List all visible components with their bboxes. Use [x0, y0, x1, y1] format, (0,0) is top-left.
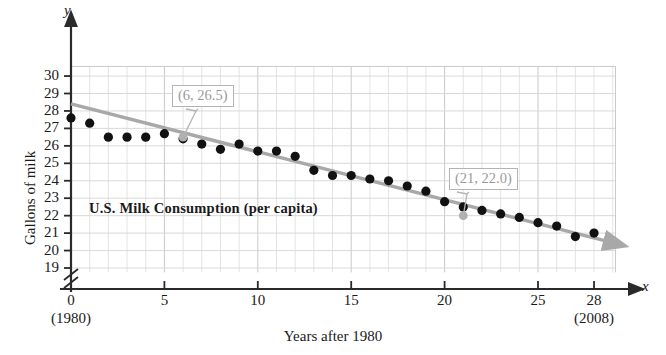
x-tick-label: 20 [425, 292, 465, 309]
y-tick-label: 28 [31, 102, 59, 119]
y-tick-label: 30 [31, 67, 59, 84]
x-axis-variable: x [642, 278, 649, 295]
chart-title: U.S. Milk Consumption (per capita) [89, 200, 318, 217]
x-tick-label: 0 [51, 292, 91, 309]
x-tick-label: 28 [574, 292, 614, 309]
chart-gridlines [71, 66, 616, 272]
x-tick-label: 15 [331, 292, 371, 309]
callout-label-1: (6, 26.5) [172, 85, 234, 107]
x-tick-label: 10 [238, 292, 278, 309]
chart-figure: 192021222324252627282930 051015202528 Ga… [0, 0, 666, 355]
x-axis-label: Years after 1980 [0, 328, 666, 345]
y-axis-variable: y [64, 2, 71, 19]
y-tick-label: 27 [31, 119, 59, 136]
callout-label-2: (21, 22.0) [449, 168, 518, 190]
x-tick-label: 5 [144, 292, 184, 309]
y-tick-label: 19 [31, 259, 59, 276]
x-origin-year-note: (1980) [36, 310, 106, 327]
y-tick-label: 29 [31, 85, 59, 102]
x-end-year-note: (2008) [559, 310, 629, 327]
trend-line [71, 104, 607, 241]
x-tick-label: 25 [518, 292, 558, 309]
y-axis-label: Gallons of milk [22, 151, 39, 245]
